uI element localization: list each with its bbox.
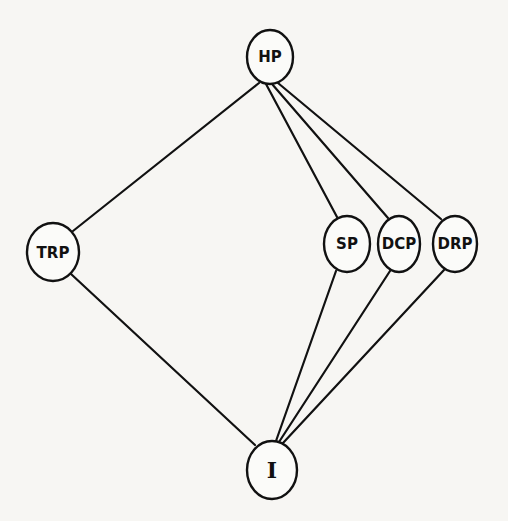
- edge-sp-i: [276, 271, 336, 441]
- node-label-dcp: DCP: [382, 235, 416, 253]
- node-label-i: I: [267, 457, 277, 483]
- edge-hp-dcp: [272, 84, 388, 218]
- edge-hp-trp: [73, 83, 259, 231]
- edge-trp-i: [71, 274, 255, 445]
- node-drp: DRP: [433, 216, 477, 272]
- node-label-drp: DRP: [438, 235, 473, 253]
- lattice-diagram: HP TRP SP DCP DRP I: [0, 0, 508, 521]
- edge-drp-i: [283, 270, 444, 443]
- node-label-hp: HP: [258, 48, 282, 66]
- edge-dcp-i: [279, 271, 390, 442]
- node-sp: SP: [324, 216, 370, 272]
- node-i: I: [247, 441, 297, 499]
- node-label-trp: TRP: [37, 244, 70, 262]
- node-label-sp: SP: [336, 235, 358, 253]
- node-dcp: DCP: [378, 216, 420, 272]
- node-hp: HP: [247, 30, 293, 84]
- node-trp: TRP: [27, 223, 79, 281]
